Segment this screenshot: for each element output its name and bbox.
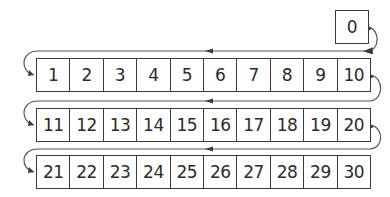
number-cell: 1 bbox=[36, 58, 70, 92]
number-cell: 14 bbox=[136, 108, 170, 142]
number-cell: 11 bbox=[36, 108, 70, 142]
number-cell: 22 bbox=[69, 155, 103, 189]
number-cell: 10 bbox=[337, 58, 371, 92]
number-cell: 25 bbox=[170, 155, 204, 189]
number-cell: 12 bbox=[69, 108, 103, 142]
number-cell: 17 bbox=[236, 108, 270, 142]
number-cell: 18 bbox=[270, 108, 304, 142]
number-cell: 7 bbox=[236, 58, 270, 92]
number-cell: 28 bbox=[270, 155, 304, 189]
number-cell: 6 bbox=[203, 58, 237, 92]
number-cell: 26 bbox=[203, 155, 237, 189]
number-cell: 2 bbox=[69, 58, 103, 92]
number-cell: 30 bbox=[337, 155, 371, 189]
number-cell: 5 bbox=[170, 58, 204, 92]
number-cell: 19 bbox=[303, 108, 337, 142]
number-cell: 15 bbox=[170, 108, 204, 142]
number-cell: 27 bbox=[236, 155, 270, 189]
number-cell: 16 bbox=[203, 108, 237, 142]
number-cell: 4 bbox=[136, 58, 170, 92]
number-cell: 23 bbox=[103, 155, 137, 189]
number-cell: 21 bbox=[36, 155, 70, 189]
number-cell: 13 bbox=[103, 108, 137, 142]
number-cell: 3 bbox=[103, 58, 137, 92]
number-cell: 9 bbox=[303, 58, 337, 92]
number-cell: 8 bbox=[270, 58, 304, 92]
number-cell: 20 bbox=[337, 108, 371, 142]
number-cell: 29 bbox=[303, 155, 337, 189]
start-box: 0 bbox=[335, 10, 369, 44]
number-cell: 24 bbox=[136, 155, 170, 189]
